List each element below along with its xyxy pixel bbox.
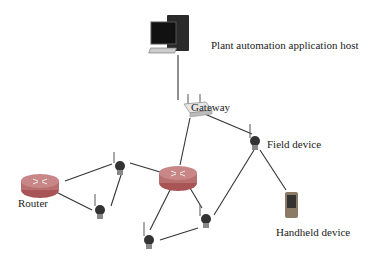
gateway-label: Gateway xyxy=(191,102,230,113)
handheld-label: Handheld device xyxy=(276,227,350,238)
network-diagram: Plant automation application host Gatewa… xyxy=(0,0,370,268)
center-router-icon xyxy=(159,166,197,191)
host-label: Plant automation application host xyxy=(211,40,359,51)
handheld-device-icon xyxy=(285,192,298,218)
connection-lines xyxy=(56,55,286,240)
router-icon xyxy=(21,174,59,198)
field-device-icon xyxy=(200,205,211,228)
router-label: Router xyxy=(18,198,48,209)
field-device-icon xyxy=(250,124,260,150)
field-device-label: Field device xyxy=(267,139,321,150)
host-computer-icon xyxy=(149,15,189,53)
field-device-icon xyxy=(114,152,125,175)
field-device-icon xyxy=(95,194,105,219)
